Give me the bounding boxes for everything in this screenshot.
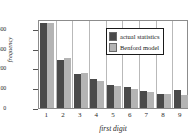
bar-group xyxy=(156,94,173,108)
x-tick-label: 4 xyxy=(88,111,104,119)
bar xyxy=(81,73,88,108)
bar xyxy=(107,85,114,108)
bar xyxy=(157,94,164,108)
x-tick-label: 2 xyxy=(55,111,71,119)
bar-group xyxy=(139,91,156,108)
legend-item: Benford model xyxy=(109,42,160,52)
legend-label-actual-statistics: actual statistics xyxy=(120,32,160,41)
legend: actual statistics Benford model xyxy=(106,28,164,55)
bar xyxy=(131,89,138,108)
legend-swatch-benford-model xyxy=(109,43,117,52)
bar xyxy=(64,58,71,108)
y-tick-label: 200 xyxy=(0,65,6,71)
bar xyxy=(74,74,81,108)
bar-group xyxy=(172,90,189,108)
bar xyxy=(181,95,188,108)
y-axis-label: frequency xyxy=(6,23,13,77)
bar xyxy=(90,79,97,108)
bar xyxy=(40,23,47,108)
bar-group xyxy=(106,85,123,108)
x-tick-label: 7 xyxy=(138,111,154,119)
bar xyxy=(164,94,171,108)
legend-item: actual statistics xyxy=(109,31,160,41)
y-tick-mark xyxy=(33,109,38,110)
legend-swatch-actual-statistics xyxy=(109,32,117,41)
bar-chart-figure: frequency 0100200300400 123456789 first … xyxy=(0,0,196,140)
bar xyxy=(174,90,181,108)
bar xyxy=(97,81,104,108)
bar-group xyxy=(122,87,139,108)
x-tick-label: 1 xyxy=(38,111,54,119)
y-tick-label: 100 xyxy=(0,85,6,91)
y-tick-label: 0 xyxy=(0,105,6,111)
y-tick-label: 400 xyxy=(0,26,6,32)
bar xyxy=(57,60,64,108)
bar-group xyxy=(89,79,106,108)
bar xyxy=(147,92,154,108)
bar xyxy=(140,91,147,108)
y-tick-label: 300 xyxy=(0,46,6,52)
bar-group xyxy=(56,58,73,108)
x-axis-label: first digit xyxy=(38,124,188,133)
bar-group xyxy=(72,73,89,108)
legend-label-benford-model: Benford model xyxy=(120,43,159,52)
x-tick-label: 5 xyxy=(105,111,121,119)
bar-group xyxy=(39,23,56,108)
x-tick-label: 3 xyxy=(72,111,88,119)
x-tick-label: 8 xyxy=(155,111,171,119)
bar xyxy=(124,87,131,108)
bar xyxy=(47,23,54,108)
x-tick-label: 6 xyxy=(122,111,138,119)
x-tick-label: 9 xyxy=(172,111,188,119)
bar xyxy=(114,86,121,108)
